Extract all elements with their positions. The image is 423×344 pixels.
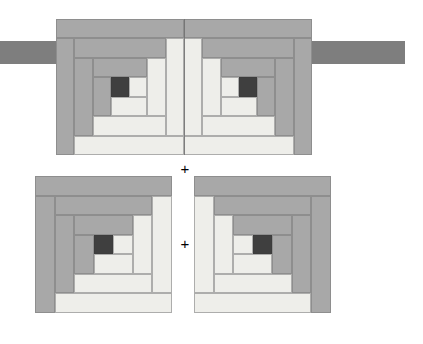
plus-sign-top: + <box>177 161 193 177</box>
log-12-medium <box>184 19 312 38</box>
log-11-medium <box>35 196 55 313</box>
log-4-medium <box>93 58 148 77</box>
log-9-light <box>194 196 214 294</box>
diagram-canvas: + + <box>0 0 423 344</box>
center-square <box>111 77 129 96</box>
log-1-light <box>221 77 239 96</box>
log-8-medium <box>202 38 293 57</box>
center-square <box>239 77 257 96</box>
log-9-light <box>152 196 172 294</box>
center-square <box>94 235 114 255</box>
log-6-light <box>93 116 166 135</box>
log-6-light <box>202 116 275 135</box>
log-4-medium <box>74 215 133 235</box>
log-8-medium <box>74 38 165 57</box>
log-6-light <box>74 274 152 294</box>
bottom-left-block <box>35 176 172 313</box>
log-1-light <box>113 235 133 255</box>
log-8-medium <box>55 196 153 216</box>
log-6-light <box>214 274 292 294</box>
log-7-medium <box>74 58 92 136</box>
log-12-medium <box>56 19 184 38</box>
center-square <box>253 235 273 255</box>
top-pair-center-seam <box>184 19 185 155</box>
log-10-light <box>184 136 294 155</box>
log-5-light <box>214 215 234 274</box>
bottom-right-block <box>194 176 331 313</box>
log-11-medium <box>56 38 74 155</box>
log-12-medium <box>35 176 172 196</box>
log-5-light <box>202 58 220 116</box>
log-3-medium <box>74 235 94 274</box>
log-2-light <box>221 97 258 116</box>
log-8-medium <box>214 196 312 216</box>
log-10-light <box>74 136 184 155</box>
plus-sign-bottom: + <box>177 236 193 252</box>
log-1-light <box>129 77 147 96</box>
log-11-medium <box>294 38 312 155</box>
log-9-light <box>166 38 184 135</box>
log-1-light <box>233 235 253 255</box>
log-10-light <box>55 293 172 313</box>
log-7-medium <box>55 215 75 293</box>
log-4-medium <box>233 215 292 235</box>
log-2-light <box>233 254 272 274</box>
top-right-block <box>184 19 312 155</box>
log-3-medium <box>257 77 275 116</box>
log-9-light <box>184 38 202 135</box>
log-3-medium <box>93 77 111 116</box>
log-11-medium <box>311 196 331 313</box>
log-7-medium <box>292 215 312 293</box>
log-7-medium <box>275 58 293 136</box>
log-2-light <box>94 254 133 274</box>
log-3-medium <box>272 235 292 274</box>
log-10-light <box>194 293 311 313</box>
log-2-light <box>111 97 148 116</box>
top-left-block <box>56 19 184 155</box>
log-4-medium <box>221 58 276 77</box>
log-5-light <box>147 58 165 116</box>
log-5-light <box>133 215 153 274</box>
log-12-medium <box>194 176 331 196</box>
